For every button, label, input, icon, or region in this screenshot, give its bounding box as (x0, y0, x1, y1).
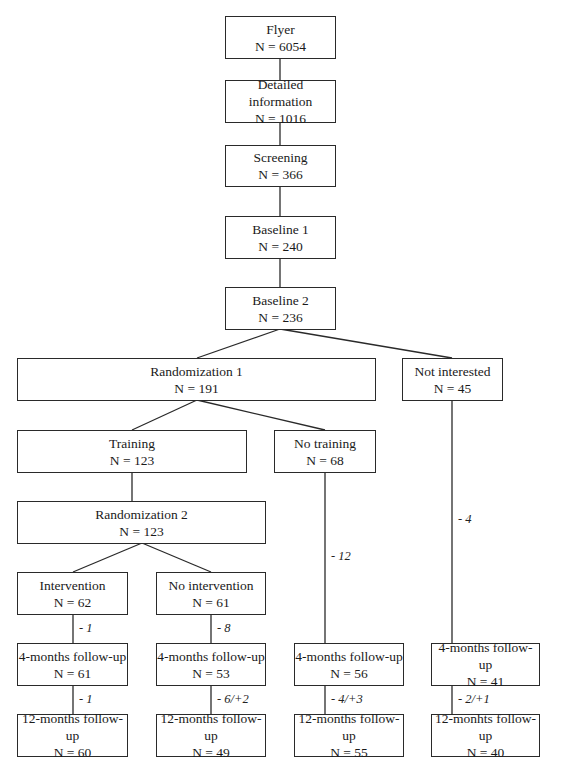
node-title: Baseline 2 (252, 292, 309, 309)
node-title: 4-months follow-up (432, 639, 539, 673)
node-count: N = 236 (258, 309, 302, 326)
node-title: 12-monhts follow-up (432, 710, 539, 744)
node-count: N = 62 (54, 594, 92, 611)
node-title: Randomization 1 (150, 363, 243, 380)
node-title: Baseline 1 (252, 221, 309, 238)
node-not-interested-4-months: 4-months follow-up N = 41 (431, 643, 540, 686)
node-count: N = 45 (434, 380, 472, 397)
node-count: N = 366 (258, 166, 302, 183)
node-not-interested-12-months: 12-monhts follow-up N = 40 (431, 714, 540, 757)
node-baseline-1: Baseline 1 N = 240 (225, 216, 336, 259)
node-count: N = 40 (467, 744, 505, 761)
node-count: N = 56 (330, 665, 368, 682)
node-title: Training (109, 435, 155, 452)
node-screening: Screening N = 366 (225, 145, 336, 187)
node-count: N = 6054 (255, 38, 306, 55)
node-title: Intervention (40, 577, 106, 594)
node-count: N = 60 (54, 744, 92, 761)
node-intervention: Intervention N = 62 (17, 572, 128, 615)
node-count: N = 41 (467, 673, 505, 690)
node-flyer: Flyer N = 6054 (225, 16, 336, 59)
node-count: N = 123 (110, 452, 154, 469)
node-title: Randomization 2 (95, 506, 188, 523)
node-count: N = 123 (119, 523, 163, 540)
node-not-interested: Not interested N = 45 (402, 358, 503, 401)
node-training: Training N = 123 (17, 430, 247, 473)
node-title: 12-months follow-up (157, 710, 265, 744)
node-title: 4-months follow-up (19, 648, 127, 665)
edge-label-no-training-dropout: - 12 (331, 549, 351, 564)
node-count: N = 55 (330, 744, 368, 761)
edge-label-no-training-4m-dropout: - 4/+3 (331, 692, 363, 707)
node-no-training-4-months: 4-months follow-up N = 56 (294, 643, 404, 686)
edge-label-not-interested-dropout: - 4 (458, 512, 472, 527)
node-title: Not interested (414, 363, 490, 380)
node-randomization-2: Randomization 2 N = 123 (17, 501, 266, 544)
edge-label-not-interested-4m-dropout: - 2/+1 (458, 692, 490, 707)
node-title: No intervention (168, 577, 253, 594)
node-no-training: No training N = 68 (274, 430, 376, 473)
node-title: 4-months follow-up (295, 648, 403, 665)
node-title: 4-months follow-up (157, 648, 265, 665)
node-count: N = 61 (54, 665, 92, 682)
node-no-intervention-4-months: 4-months follow-up N = 53 (156, 643, 266, 686)
node-title: Flyer (266, 21, 295, 38)
node-count: N = 53 (192, 665, 230, 682)
node-intervention-12-months: 12-months follow-up N = 60 (17, 714, 128, 757)
edge-label-no-intervention-dropout: - 8 (217, 621, 231, 636)
node-intervention-4-months: 4-months follow-up N = 61 (17, 643, 128, 686)
node-detailed-information: Detailed information N = 1016 (225, 80, 336, 123)
node-no-intervention: No intervention N = 61 (156, 572, 266, 615)
node-title: 12-months follow-up (295, 710, 403, 744)
edge-label-intervention-dropout: - 1 (79, 621, 93, 636)
node-count: N = 68 (306, 452, 344, 469)
node-randomization-1: Randomization 1 N = 191 (17, 358, 376, 401)
node-count: N = 49 (192, 744, 230, 761)
node-count: N = 240 (258, 238, 302, 255)
node-count: N = 1016 (255, 110, 306, 127)
node-title: No training (294, 435, 356, 452)
node-title: Detailed information (226, 76, 335, 110)
node-count: N = 61 (192, 594, 230, 611)
node-baseline-2: Baseline 2 N = 236 (225, 287, 336, 330)
node-count: N = 191 (174, 380, 218, 397)
node-title: Screening (254, 149, 308, 166)
node-no-intervention-12-months: 12-months follow-up N = 49 (156, 714, 266, 757)
node-title: 12-months follow-up (18, 710, 127, 744)
edge-label-intervention-4m-dropout: - 1 (79, 692, 93, 707)
node-no-training-12-months: 12-months follow-up N = 55 (294, 714, 404, 757)
edge-label-no-intervention-4m-dropout: - 6/+2 (217, 692, 249, 707)
